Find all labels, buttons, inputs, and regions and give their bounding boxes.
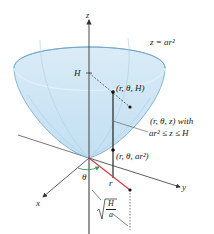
point-bottom <box>111 148 115 152</box>
height-label: H <box>74 69 81 78</box>
sqrt-numerator: H <box>106 200 116 210</box>
point-mid-label-2: ar² ≤ z ≤ H <box>149 129 189 138</box>
theta-arc <box>78 167 99 170</box>
sqrt-denominator: a <box>106 210 116 219</box>
radius-label: r <box>109 179 113 188</box>
theta-label: θ <box>82 173 86 182</box>
point-top <box>111 90 115 94</box>
point-mid-label-1: (r, θ, z) with <box>150 117 193 126</box>
point-bottom-label: (r, θ, ar²) <box>116 152 149 161</box>
point-top-label: (r, θ, H) <box>116 84 144 93</box>
sqrt-leader-left <box>92 190 101 200</box>
z-axis-label: z <box>86 12 89 20</box>
x-axis-label: x <box>36 199 40 208</box>
point-rim <box>128 105 131 108</box>
y-axis-label: y <box>182 183 186 192</box>
y-axis <box>89 158 180 187</box>
surface-equation: z = ar² <box>150 38 175 47</box>
paraboloid-diagram: z x y z = ar² H (r, θ, H) (r, θ, z) with… <box>0 0 214 234</box>
sqrt-fraction: H a <box>106 200 116 219</box>
